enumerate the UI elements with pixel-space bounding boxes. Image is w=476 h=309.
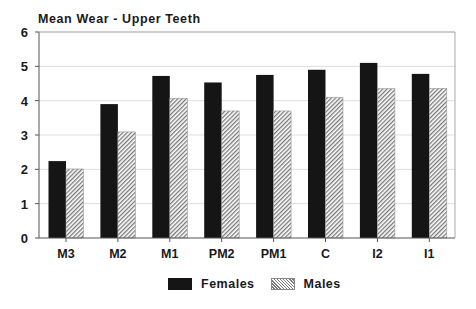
- x-tick-label: M3: [57, 247, 74, 261]
- y-tick-label: 1: [21, 197, 28, 212]
- y-tick-label: 2: [21, 162, 28, 177]
- bar-males-i2: [377, 89, 395, 238]
- bar-males-m3: [66, 169, 84, 238]
- y-tick-label: 4: [21, 94, 29, 109]
- males-swatch-icon: [271, 278, 295, 290]
- y-tick-label: 6: [21, 25, 28, 40]
- y-tick-label: 5: [21, 59, 28, 74]
- bar-males-m1: [170, 98, 188, 238]
- y-axis-ticks: 0123456: [21, 25, 39, 246]
- x-tick-label: C: [321, 247, 330, 261]
- bar-females-pm1: [256, 75, 274, 238]
- bar-females-m1: [152, 76, 170, 238]
- legend-label-males: Males: [304, 277, 341, 291]
- bar-males-pm2: [222, 111, 240, 238]
- bar-chart: 0123456 M3M2M1PM2PM1CI2I1: [0, 0, 476, 309]
- bar-females-c: [308, 70, 326, 238]
- bar-males-pm1: [274, 111, 292, 238]
- legend-item-females: Females: [168, 277, 255, 291]
- x-tick-label: I2: [372, 247, 382, 261]
- x-tick-label: M1: [161, 247, 178, 261]
- females-swatch-icon: [168, 278, 192, 290]
- x-axis-ticks: M3M2M1PM2PM1CI2I1: [57, 238, 434, 261]
- x-tick-label: I1: [424, 247, 434, 261]
- bar-females-pm2: [204, 82, 222, 238]
- x-tick-label: PM2: [209, 247, 235, 261]
- bar-females-m2: [100, 104, 118, 238]
- bar-females-i1: [412, 74, 430, 238]
- bar-males-c: [326, 97, 344, 238]
- y-tick-label: 0: [21, 231, 28, 246]
- x-tick-label: PM1: [261, 247, 287, 261]
- bar-males-m2: [118, 132, 135, 238]
- bar-females-m3: [49, 161, 67, 238]
- bars: [49, 63, 447, 238]
- legend-label-females: Females: [201, 277, 255, 291]
- bar-males-i1: [429, 88, 447, 238]
- legend: Females Males: [168, 277, 357, 291]
- y-tick-label: 3: [21, 128, 28, 143]
- bar-females-i2: [360, 63, 378, 238]
- legend-item-males: Males: [271, 277, 341, 291]
- x-tick-label: M2: [109, 247, 126, 261]
